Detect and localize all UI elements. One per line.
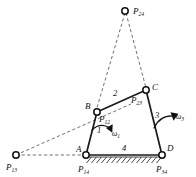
construction-line-p24-to-b xyxy=(96,13,125,111)
label-b: B xyxy=(85,101,91,111)
joint-p24[interactable] xyxy=(122,8,128,14)
construction-lines-group xyxy=(16,13,146,155)
label-link-1: 1 xyxy=(97,125,101,135)
construction-line-p24-to-c xyxy=(126,13,146,88)
label-omega1: ω1 xyxy=(112,129,120,139)
diagram-canvas: P24 P13 C P23 B P12 A P14 D P34 2 1 3 4 xyxy=(0,0,196,177)
label-link-4: 4 xyxy=(122,143,127,153)
label-p14: P14 xyxy=(77,164,89,175)
label-p12: P12 xyxy=(98,114,110,125)
label-link-3: 3 xyxy=(154,110,159,120)
label-d: D xyxy=(166,143,174,153)
label-c: C xyxy=(152,82,159,92)
linkage-diagram: P24 P13 C P23 B P12 A P14 D P34 2 1 3 4 xyxy=(0,0,196,177)
joint-c-p23[interactable] xyxy=(143,87,149,93)
link-3-rocker xyxy=(146,90,162,155)
joint-p13[interactable] xyxy=(13,152,19,158)
joint-a-p14[interactable] xyxy=(83,152,89,158)
label-p24: P24 xyxy=(132,6,144,17)
label-p23: P23 xyxy=(130,95,142,106)
label-a: A xyxy=(75,144,82,154)
ground-hatching xyxy=(86,157,162,163)
label-p13: P13 xyxy=(5,162,17,173)
link-1-crank xyxy=(86,112,97,155)
label-omega3: ω3 xyxy=(176,112,184,122)
joints-group xyxy=(13,8,165,158)
joint-d-p34[interactable] xyxy=(159,152,165,158)
label-p34: P34 xyxy=(155,164,167,175)
labels-group: P24 P13 C P23 B P12 A P14 D P34 2 1 3 4 xyxy=(5,6,184,175)
label-link-2: 2 xyxy=(113,88,118,98)
